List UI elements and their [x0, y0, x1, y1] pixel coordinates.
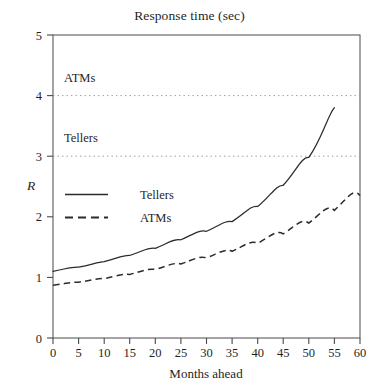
- y-tick-label-3: 3: [36, 150, 42, 164]
- figure-container: Response time (sec) 5 4 3 2 1 0: [0, 0, 379, 386]
- x-tick-label-60: 60: [354, 346, 367, 360]
- y-tick-label-1: 1: [36, 271, 42, 285]
- y-axis-ticks: [47, 35, 53, 338]
- x-tick-label-30: 30: [200, 346, 213, 360]
- x-tick-label-45: 45: [277, 346, 290, 360]
- x-tick-label-25: 25: [175, 346, 188, 360]
- y-axis-title: R: [26, 178, 36, 193]
- x-tick-label-20: 20: [149, 346, 162, 360]
- x-axis-tick-labels: 0 5 10 15 20 25 30 35 40 45 50 55 60: [50, 346, 366, 360]
- plot-frame: [53, 35, 360, 338]
- response-time-line-chart: 5 4 3 2 1 0 R 0 5 1: [0, 0, 379, 386]
- y-tick-label-0: 0: [36, 332, 42, 346]
- y-tick-label-2: 2: [36, 210, 42, 224]
- x-tick-label-55: 55: [328, 346, 341, 360]
- annotation-tellers-threshold: Tellers: [64, 131, 98, 145]
- y-tick-label-5: 5: [36, 29, 42, 43]
- legend-label-tellers: Tellers: [140, 188, 174, 202]
- x-tick-label-10: 10: [98, 346, 111, 360]
- x-tick-label-0: 0: [50, 346, 56, 360]
- annotation-atms-threshold: ATMs: [64, 71, 95, 85]
- x-tick-label-5: 5: [75, 346, 81, 360]
- x-tick-label-15: 15: [123, 346, 136, 360]
- x-axis-title: Months ahead: [169, 366, 243, 381]
- x-axis-ticks: [53, 338, 360, 344]
- x-tick-label-40: 40: [251, 346, 264, 360]
- legend-label-atms: ATMs: [140, 211, 171, 225]
- x-tick-label-35: 35: [226, 346, 239, 360]
- x-tick-label-50: 50: [303, 346, 316, 360]
- y-tick-label-4: 4: [36, 89, 43, 103]
- y-axis-tick-labels: 5 4 3 2 1 0: [36, 29, 43, 346]
